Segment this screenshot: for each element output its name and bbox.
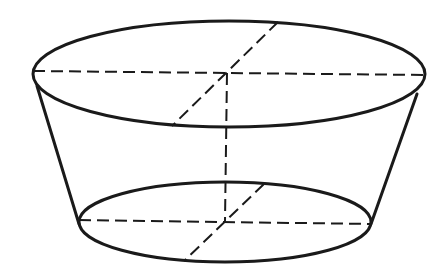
top-horizontal-diameter <box>33 71 424 75</box>
vertical-axis <box>225 73 227 221</box>
right-generator-line <box>371 94 417 224</box>
frustum-svg <box>0 0 443 279</box>
frustum-diagram: frustum-of-cone <box>0 0 443 279</box>
top-oblique-diameter <box>172 22 278 126</box>
